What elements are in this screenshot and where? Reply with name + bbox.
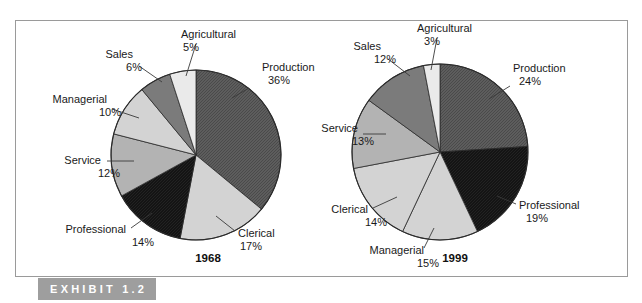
- slice-label-production: Production: [513, 62, 566, 74]
- slice-label-sales: Sales: [353, 40, 381, 52]
- slice-label-production: Production: [262, 61, 315, 73]
- slice-pct-managerial: 15%: [417, 257, 439, 269]
- slice-pct-sales: 12%: [374, 53, 396, 65]
- slice-pct-agricultural: 5%: [183, 41, 199, 53]
- slice-pct-sales: 6%: [126, 61, 142, 73]
- pie-slice-production: [440, 64, 528, 152]
- slice-label-agricultural: Agricultural: [181, 28, 236, 40]
- year-label-1968: 1968: [195, 252, 221, 264]
- slice-pct-production: 24%: [519, 75, 541, 87]
- slice-pct-service: 13%: [352, 135, 374, 147]
- slice-pct-agricultural: 3%: [424, 35, 440, 47]
- slice-label-managerial: Managerial: [53, 93, 107, 105]
- year-label-1999: 1999: [442, 252, 468, 264]
- slice-pct-managerial: 10%: [99, 106, 121, 118]
- slice-pct-service: 12%: [98, 167, 120, 179]
- leader-line-sales: [139, 66, 162, 82]
- slice-pct-clerical: 17%: [240, 240, 262, 252]
- slice-label-clerical: Clerical: [238, 227, 275, 239]
- slice-pct-clerical: 14%: [365, 216, 387, 228]
- slice-label-service: Service: [321, 122, 358, 134]
- exhibit-label: EXHIBIT 1.2: [47, 283, 147, 295]
- slice-label-clerical: Clerical: [331, 203, 368, 215]
- slice-label-managerial: Managerial: [370, 244, 424, 256]
- slice-pct-production: 36%: [268, 74, 290, 86]
- exhibit-band: EXHIBIT 1.2: [38, 278, 156, 300]
- slice-label-service: Service: [64, 154, 101, 166]
- slice-pct-professional: 14%: [132, 236, 154, 248]
- pie-chart-1999: [352, 64, 528, 240]
- slice-label-professional: Professional: [65, 223, 126, 235]
- slice-label-sales: Sales: [105, 48, 133, 60]
- slice-label-professional: Professional: [519, 199, 580, 211]
- slice-label-agricultural: Agricultural: [417, 22, 472, 34]
- pie-chart-1968: [111, 70, 281, 240]
- slice-pct-professional: 19%: [526, 212, 548, 224]
- exhibit-figure: Production36%Clerical17%Professional14%S…: [0, 0, 642, 303]
- pie-charts-svg: Production36%Clerical17%Professional14%S…: [0, 0, 642, 303]
